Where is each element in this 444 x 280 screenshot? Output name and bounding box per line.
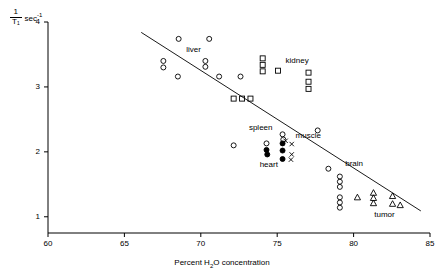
data-point-brain — [337, 179, 342, 184]
data-point-liver — [175, 74, 180, 79]
data-point-brain — [337, 184, 342, 189]
data-point-liver — [203, 64, 208, 69]
x-axis-label: Percent H2O concentration — [0, 258, 444, 269]
y-axis-tick-label: 2 — [22, 147, 40, 156]
data-point-kidney — [306, 70, 311, 75]
data-point-spleen — [231, 143, 236, 148]
series-heart — [264, 141, 285, 162]
data-point-kidney — [306, 79, 311, 84]
plot-canvas — [0, 0, 444, 280]
series-liver — [161, 36, 243, 79]
data-point-heart — [280, 141, 285, 146]
data-point-liver — [161, 58, 166, 63]
series-annotation-liver: liver — [186, 45, 201, 54]
data-point-kidney — [231, 96, 236, 101]
data-point-kidney — [260, 62, 265, 67]
data-point-tumor — [397, 202, 403, 208]
x-axis-tick-label: 70 — [187, 239, 215, 248]
data-point-liver — [161, 65, 166, 70]
data-point-kidney — [260, 69, 265, 74]
data-point-tumor — [354, 194, 360, 200]
data-point-spleen — [264, 141, 269, 146]
data-point-kidney — [275, 68, 280, 73]
x-axis-tick-label: 80 — [340, 239, 368, 248]
data-point-liver — [217, 74, 222, 79]
data-point-liver — [207, 36, 212, 41]
data-point-liver — [238, 74, 243, 79]
data-point-liver — [203, 58, 208, 63]
data-point-kidney — [306, 86, 311, 91]
series-brain — [326, 166, 342, 210]
data-point-brain — [337, 205, 342, 210]
series-annotation-heart: heart — [260, 160, 278, 169]
data-points — [161, 36, 403, 210]
x-axis-tick-label: 65 — [110, 239, 138, 248]
figure-scatter-plot: 1 T₁ sec-1 Percent H2O concentration 606… — [0, 0, 444, 280]
y-axis-denominator: T₁ — [10, 18, 22, 26]
y-axis-fraction: 1 T₁ — [10, 8, 22, 26]
series-tumor — [354, 190, 403, 208]
data-point-brain — [337, 200, 342, 205]
data-point-kidney — [260, 56, 265, 61]
data-point-heart — [280, 156, 285, 161]
series-annotation-tumor: tumor — [374, 210, 394, 219]
data-point-heart — [280, 148, 285, 153]
data-point-heart — [265, 152, 270, 157]
data-point-brain — [337, 195, 342, 200]
data-point-spleen — [280, 132, 285, 137]
axes — [44, 22, 430, 237]
y-axis-tick-label: 3 — [22, 82, 40, 91]
data-point-liver — [176, 36, 181, 41]
series-annotation-brain: brain — [345, 159, 363, 168]
x-axis-tick-label: 75 — [263, 239, 291, 248]
x-axis-tick-label: 60 — [34, 239, 62, 248]
series-annotation-spleen: spleen — [249, 123, 273, 132]
series-annotation-muscle: muscle — [296, 131, 321, 140]
x-axis-tick-label: 85 — [416, 239, 444, 248]
series-annotation-kidney: kidney — [286, 56, 309, 65]
data-point-kidney — [248, 96, 253, 101]
y-axis-numerator: 1 — [10, 8, 22, 16]
data-point-muscle — [290, 152, 294, 156]
regression-line — [141, 32, 421, 211]
data-point-muscle — [289, 157, 293, 161]
data-point-tumor — [389, 201, 395, 207]
y-axis-tick-label: 4 — [22, 17, 40, 26]
y-axis-tick-label: 1 — [22, 212, 40, 221]
data-point-muscle — [290, 142, 294, 146]
data-point-brain — [337, 174, 342, 179]
data-point-brain — [326, 166, 331, 171]
trend-line — [141, 32, 421, 211]
